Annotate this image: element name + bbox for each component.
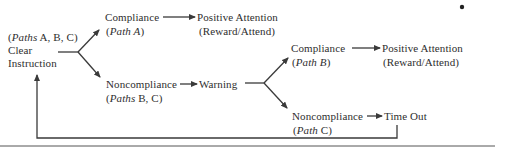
compliance-b-path: (Path B) xyxy=(292,56,330,68)
start-paths-label: (Paths A, B, C) xyxy=(8,31,78,43)
timeout-label: Time Out xyxy=(384,110,427,122)
noncompliance-c-path: (Path C) xyxy=(293,124,332,136)
noncompliance-c-label: Noncompliance xyxy=(292,110,363,122)
arrow-to-noncompliance-bc xyxy=(78,52,100,77)
noncompliance-bc-path: (Paths B, C) xyxy=(106,92,163,104)
noncompliance-bc-label: Noncompliance xyxy=(106,78,177,90)
dot-mark xyxy=(460,5,464,9)
start-label-clear: Clear xyxy=(8,44,32,56)
compliance-a-path: (Path A) xyxy=(106,25,144,37)
compliance-b-label: Compliance xyxy=(291,42,345,54)
arrow-to-noncompliance-c xyxy=(264,83,287,108)
positive-a-label: Positive Attention xyxy=(197,11,278,23)
warning-label: Warning xyxy=(199,78,237,90)
positive-b-sub: (Reward/Attend) xyxy=(383,56,459,68)
arrow-to-compliance-a xyxy=(78,30,99,52)
positive-a-sub: (Reward/Attend) xyxy=(199,25,275,37)
start-label-instruction: Instruction xyxy=(8,57,57,69)
positive-b-label: Positive Attention xyxy=(382,42,463,54)
compliance-a-label: Compliance xyxy=(105,11,159,23)
arrow-to-compliance-b xyxy=(264,58,288,83)
